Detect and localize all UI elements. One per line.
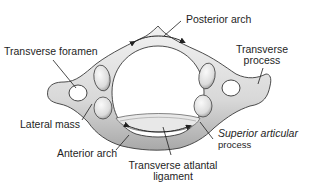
right-transverse-foramen xyxy=(222,80,240,96)
label-superior-articular-process: Superior articular process xyxy=(218,128,298,150)
label-lateral-mass: Lateral mass xyxy=(20,119,80,130)
label-transverse-foramen: Transverse foramen xyxy=(4,46,98,57)
label-transverse-atlantal-ligament: Transverse atlantal ligament xyxy=(118,160,228,182)
label-transverse-process-line2: process xyxy=(232,55,292,66)
left-transverse-foramen xyxy=(69,85,87,101)
label-superior-articular-line1: Superior articular xyxy=(218,128,298,139)
leader-posterior-arch xyxy=(164,21,181,36)
label-transverse-atlantal-ligament-line2: ligament xyxy=(118,171,228,182)
label-posterior-arch: Posterior arch xyxy=(186,14,251,25)
label-anterior-arch: Anterior arch xyxy=(57,148,117,159)
label-transverse-process: Transverse process xyxy=(232,44,292,66)
label-superior-articular-line2: process xyxy=(218,139,298,150)
